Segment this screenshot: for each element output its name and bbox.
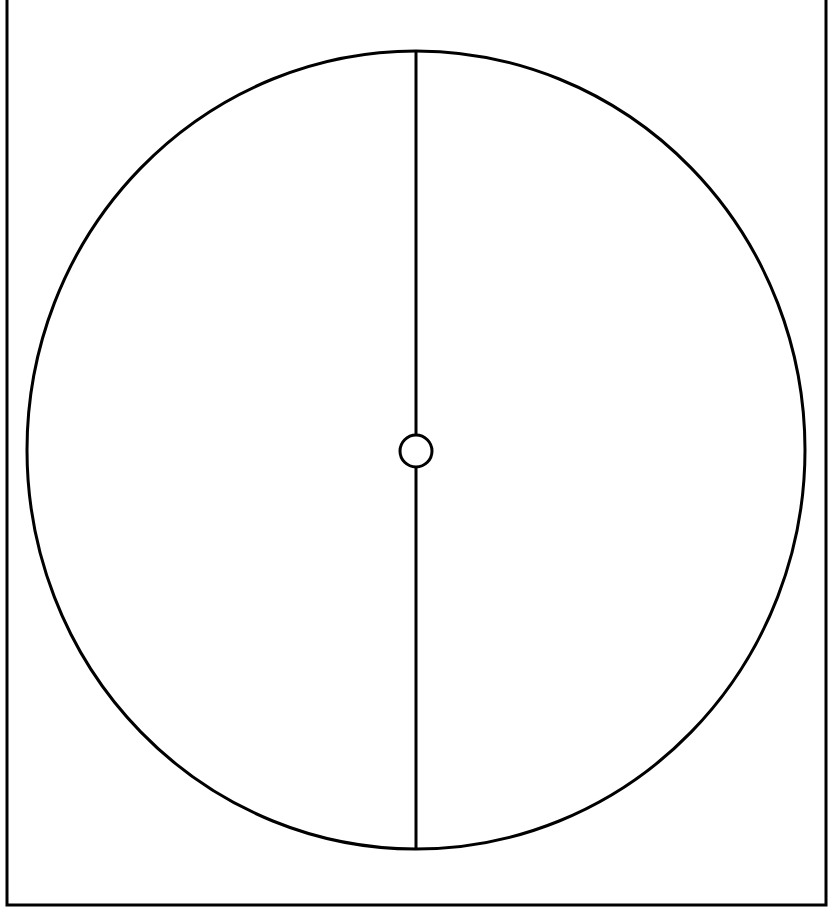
diagram-canvas xyxy=(0,0,830,921)
center-point xyxy=(400,435,432,467)
